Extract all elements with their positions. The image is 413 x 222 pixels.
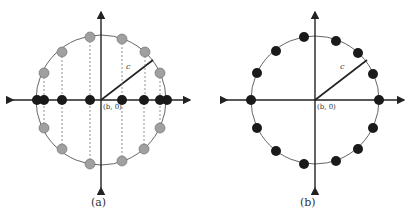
circle-point	[271, 46, 281, 56]
circle-point	[374, 95, 384, 105]
panel-b	[227, 12, 404, 188]
circle-point	[353, 144, 363, 154]
circle-point	[57, 47, 67, 57]
radius-label-b: c	[340, 62, 344, 71]
circle-point	[252, 123, 262, 133]
axis-point	[57, 95, 67, 105]
panel-a	[13, 12, 190, 188]
circle-point	[139, 144, 149, 154]
circle-point	[246, 95, 256, 105]
circle-point	[353, 48, 363, 58]
circle-point	[299, 32, 309, 42]
circle-point	[39, 68, 49, 78]
circle-point	[85, 32, 95, 42]
circle-point	[368, 69, 378, 79]
center-label-a: (b, 0)	[103, 103, 122, 111]
circle-point	[155, 123, 165, 133]
circle-point	[368, 123, 378, 133]
caption-b: (b)	[300, 196, 316, 209]
circle-point	[85, 159, 95, 169]
circle-point	[331, 36, 341, 46]
circle-point	[140, 47, 150, 57]
caption-a: (a)	[91, 196, 106, 209]
axis-point	[162, 95, 172, 105]
axis-point	[85, 95, 95, 105]
circle-point	[271, 146, 281, 156]
circle-point	[299, 159, 309, 169]
figure-canvas	[0, 0, 413, 222]
circle-point	[155, 68, 165, 78]
circle-point	[39, 123, 49, 133]
axis-point	[39, 95, 49, 105]
circle-point	[57, 144, 67, 154]
axis-point	[139, 95, 149, 105]
circle-point	[252, 68, 262, 78]
circle-point	[117, 34, 127, 44]
circle-point	[117, 156, 127, 166]
radius-label-a: c	[126, 62, 130, 71]
circle-point	[331, 156, 341, 166]
center-label-b: (b, 0)	[317, 103, 336, 111]
